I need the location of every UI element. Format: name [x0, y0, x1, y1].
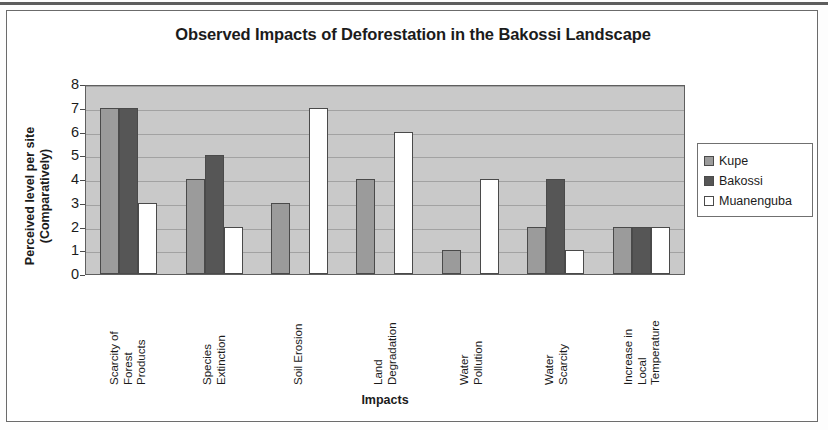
chart-legend: KupeBakossiMuanenguba	[697, 143, 813, 217]
bar-group	[86, 86, 171, 274]
y-axis-tick-label: 8	[51, 77, 79, 92]
bar-bakossi	[119, 108, 138, 274]
x-axis-tick-label: Increase inLocalTemperature	[622, 277, 663, 385]
y-axis-tickmark	[80, 251, 85, 252]
x-axis-tick-label: Soil Erosion	[293, 277, 307, 385]
y-axis-tick-label: 1	[51, 243, 79, 258]
bar-bakossi	[632, 227, 651, 275]
bar-bakossi	[205, 155, 224, 274]
x-axis-label-cell: WaterPollution	[428, 277, 514, 387]
x-axis-tick-label: LandDegradation	[372, 277, 399, 385]
legend-swatch-kupe	[704, 156, 714, 166]
y-axis-tick-label: 0	[51, 267, 79, 282]
bar-kupe	[613, 227, 632, 275]
x-axis-tick-label-line: Temperature	[649, 277, 663, 385]
bar-kupe	[100, 108, 119, 274]
x-axis-tick-label: WaterScarcity	[543, 277, 570, 385]
bar-muanenguba	[394, 132, 413, 275]
legend-item: Muanenguba	[704, 194, 807, 208]
x-axis-tick-label-line: Scarcity of	[108, 277, 122, 385]
y-axis-tickmark	[80, 85, 85, 86]
bar-kupe	[186, 179, 205, 274]
x-axis-tick-label-line: Water	[457, 277, 471, 385]
x-axis-tick-label-line: Pollution	[471, 277, 485, 385]
y-axis-tickmark	[80, 275, 85, 276]
scanned-page: Observed Impacts of Deforestation in the…	[0, 0, 828, 430]
x-axis-tick-label-line: Increase in	[622, 277, 636, 385]
bar-group	[171, 86, 256, 274]
bar-kupe	[527, 227, 546, 275]
bar-group	[513, 86, 598, 274]
y-axis-tickmark	[80, 109, 85, 110]
x-axis-tick-label-line: Forest	[121, 277, 135, 385]
y-axis-tickmark	[80, 228, 85, 229]
y-axis-tick-label: 7	[51, 101, 79, 116]
x-axis-tick-label-line: Water	[543, 277, 557, 385]
bar-muanenguba	[565, 250, 584, 274]
y-axis-tickmark	[80, 156, 85, 157]
bar-kupe	[271, 203, 290, 274]
x-axis-label-cell: Soil Erosion	[256, 277, 342, 387]
legend-swatch-bakossi	[704, 176, 714, 186]
bar-kupe	[356, 179, 375, 274]
y-axis-tickmark	[80, 180, 85, 181]
x-axis-label-cell: SpeciesExtinction	[171, 277, 257, 387]
bar-group	[428, 86, 513, 274]
bar-group	[257, 86, 342, 274]
bar-bakossi	[546, 179, 565, 274]
x-axis-label-cell: Increase inLocalTemperature	[599, 277, 685, 387]
x-axis-tick-label: SpeciesExtinction	[200, 277, 227, 385]
chart-figure: Observed Impacts of Deforestation in the…	[6, 10, 818, 422]
legend-item: Bakossi	[704, 174, 807, 188]
legend-label: Muanenguba	[719, 194, 792, 208]
x-axis-tick-label-line: Land	[372, 277, 386, 385]
x-axis-tick-label-line: Extinction	[214, 277, 228, 385]
y-axis-tick-label: 4	[51, 172, 79, 187]
x-axis-label-cell: Scarcity ofForestProducts	[85, 277, 171, 387]
plot-area	[85, 85, 685, 275]
bars-layer	[86, 86, 684, 274]
bar-muanenguba	[224, 227, 243, 275]
x-axis-tick-label-line: Products	[135, 277, 149, 385]
x-axis-label-cell: LandDegradation	[342, 277, 428, 387]
x-axis-tick-labels: Scarcity ofForestProductsSpeciesExtincti…	[85, 277, 685, 387]
legend-item: Kupe	[704, 154, 807, 168]
legend-label: Bakossi	[719, 174, 763, 188]
y-axis-tickmark	[80, 204, 85, 205]
x-axis-title: Impacts	[85, 393, 685, 407]
x-axis-tick-label-line: Species	[200, 277, 214, 385]
bar-group	[599, 86, 684, 274]
y-axis-tick-label: 5	[51, 148, 79, 163]
x-axis-tick-label-line: Scarcity	[556, 277, 570, 385]
bar-kupe	[442, 250, 461, 274]
x-axis-tick-label-line: Soil Erosion	[293, 277, 307, 385]
x-axis-tick-label: Scarcity ofForestProducts	[108, 277, 149, 385]
bar-muanenguba	[309, 108, 328, 274]
y-axis-tick-label: 2	[51, 220, 79, 235]
plot-area-wrapper	[85, 85, 685, 275]
x-axis-tick-label: WaterPollution	[457, 277, 484, 385]
bar-muanenguba	[138, 203, 157, 274]
bar-muanenguba	[651, 227, 670, 275]
y-axis-tick-labels: 876543210	[51, 77, 79, 283]
legend-label: Kupe	[719, 154, 748, 168]
y-axis-tickmark	[80, 133, 85, 134]
page-top-rule	[0, 2, 828, 5]
bar-group	[342, 86, 427, 274]
x-axis-label-cell: WaterScarcity	[514, 277, 600, 387]
y-axis-tick-label: 6	[51, 125, 79, 140]
y-axis-title: Perceived level per site (Comparatively)	[23, 81, 53, 311]
y-axis-tick-label: 3	[51, 196, 79, 211]
bar-muanenguba	[480, 179, 499, 274]
x-axis-tick-label-line: Local	[635, 277, 649, 385]
x-axis-tick-label-line: Degradation	[385, 277, 399, 385]
legend-swatch-muanenguba	[704, 196, 714, 206]
chart-title: Observed Impacts of Deforestation in the…	[7, 25, 819, 44]
